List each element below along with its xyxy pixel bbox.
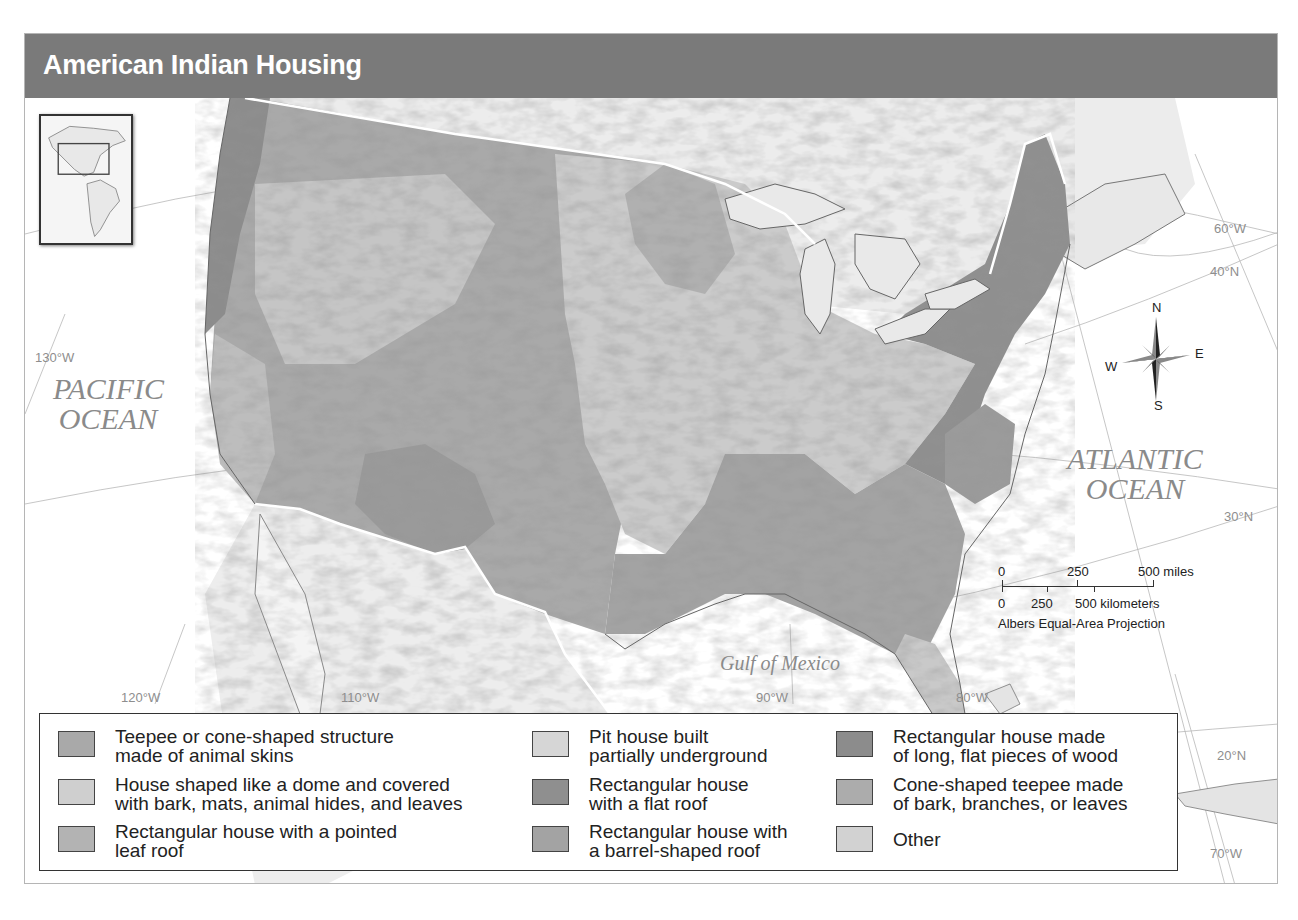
scale-line — [1002, 586, 1153, 587]
compass-rose: N S E W — [1101, 302, 1211, 412]
label-130w: 130°W — [35, 350, 74, 365]
legend-swatch — [58, 731, 95, 757]
compass-s: S — [1154, 398, 1163, 413]
scale-tick — [1002, 580, 1003, 592]
scale-tick — [1047, 586, 1048, 592]
legend-item-bark-teepee: Cone-shaped teepee madeof bark, branches… — [836, 775, 1127, 813]
legend-item-dome-house: House shaped like a dome and coveredwith… — [58, 775, 462, 813]
legend-item-pit-house: Pit house builtpartially underground — [532, 727, 768, 765]
gulf-of-mexico-label: Gulf of Mexico — [705, 648, 855, 678]
legend-swatch — [836, 826, 873, 852]
title-bar: American Indian Housing — [25, 34, 1277, 98]
map-legend: Teepee or cone-shaped structuremade of a… — [39, 713, 1178, 871]
label-60w: 60°W — [1214, 221, 1246, 236]
legend-item-flat-roof: Rectangular housewith a flat roof — [532, 775, 749, 813]
label-120w: 120°W — [121, 690, 160, 705]
legend-swatch — [58, 779, 95, 805]
legend-item-plains-teepee: Teepee or cone-shaped structuremade of a… — [58, 727, 394, 765]
legend-swatch — [836, 779, 873, 805]
label-20n: 20°N — [1217, 748, 1246, 763]
legend-item-barrel-roof: Rectangular house witha barrel-shaped ro… — [532, 822, 788, 860]
legend-swatch — [58, 826, 95, 852]
compass-w: W — [1105, 359, 1117, 374]
scale-miles-500: 500 miles — [1138, 564, 1194, 579]
label-110w: 110°W — [341, 690, 379, 705]
legend-item-plank-house: Rectangular house madeof long, flat piec… — [836, 727, 1118, 765]
scale-tick — [1077, 580, 1078, 586]
legend-swatch — [836, 731, 873, 757]
label-70w: 70°W — [1210, 846, 1242, 861]
pacific-ocean-label: PACIFIC OCEAN — [53, 374, 163, 434]
legend-item-other: Other — [836, 822, 941, 852]
label-80w: 80°W — [956, 690, 988, 705]
scale-miles-0: 0 — [998, 564, 1005, 579]
legend-swatch — [532, 779, 569, 805]
label-30n: 30°N — [1224, 509, 1253, 524]
map-title: American Indian Housing — [43, 50, 362, 81]
label-90w: 90°W — [756, 690, 788, 705]
projection-label: Albers Equal-Area Projection — [998, 616, 1165, 631]
legend-swatch — [532, 731, 569, 757]
scale-km-0: 0 — [998, 596, 1005, 611]
scale-km-500: 500 kilometers — [1075, 596, 1160, 611]
label-40n: 40°N — [1210, 264, 1239, 279]
map-frame: American Indian Housing PACIFIC OCEAN AT… — [24, 33, 1278, 884]
legend-item-pointed-leaf-roof: Rectangular house with a pointedleaf roo… — [58, 822, 397, 860]
locator-inset-map — [39, 114, 133, 245]
scale-miles-250: 250 — [1067, 564, 1089, 579]
compass-e: E — [1195, 346, 1204, 361]
legend-swatch — [532, 826, 569, 852]
compass-n: N — [1152, 300, 1161, 315]
scale-tick — [1153, 580, 1154, 587]
locator-globe-icon — [41, 116, 131, 243]
scale-bar: 0 250 500 miles 0 250 500 kilometers Alb… — [995, 564, 1235, 644]
scale-km-250: 250 — [1031, 596, 1053, 611]
atlantic-ocean-label: ATLANTIC OCEAN — [1055, 444, 1215, 504]
scale-tick — [1094, 586, 1095, 592]
